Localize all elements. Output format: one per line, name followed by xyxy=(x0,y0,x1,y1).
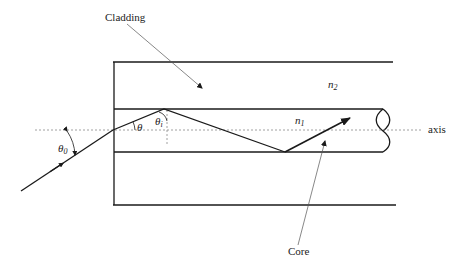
incident-ray xyxy=(21,130,113,191)
guided-ray xyxy=(113,109,350,152)
cladding-pointer xyxy=(127,24,202,88)
n1-label: n1 xyxy=(295,114,305,128)
axis-label: axis xyxy=(428,123,446,135)
theta-label: θ xyxy=(137,121,143,133)
theta-0-arc xyxy=(67,131,75,155)
cladding-outline xyxy=(113,62,396,205)
core-pointer xyxy=(298,141,325,245)
n2-label: n2 xyxy=(328,78,338,92)
theta-0-label: θ0 xyxy=(58,142,67,156)
cladding-label: Cladding xyxy=(105,11,146,23)
theta-i-label: θi xyxy=(155,115,163,129)
optical-fiber-diagram: Cladding Core axis n2 n1 θ θi θ0 xyxy=(0,0,461,264)
core-label: Core xyxy=(288,245,310,257)
theta-arc xyxy=(133,122,135,130)
